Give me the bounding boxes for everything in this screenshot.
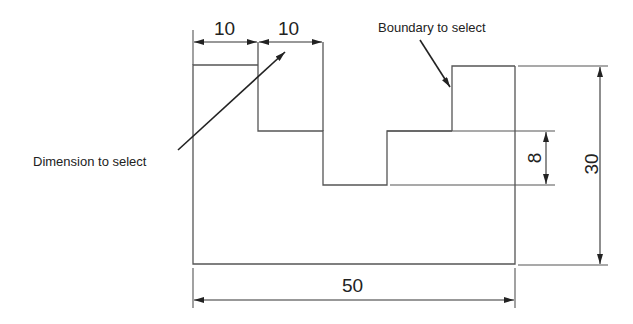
dim-label-top-left: 10: [214, 18, 235, 40]
leader-dimension-arrow: [178, 52, 285, 150]
dim-label-right-small: 8: [524, 153, 546, 164]
callout-dimension-to-select: Dimension to select: [33, 154, 146, 169]
dim-label-right-overall: 30: [581, 153, 603, 174]
leader-boundary-arrow: [420, 40, 450, 87]
part-outline: [193, 42, 515, 264]
callout-boundary-to-select: Boundary to select: [378, 20, 486, 35]
dim-label-bottom: 50: [342, 275, 363, 297]
dim-label-top-right: 10: [278, 18, 299, 40]
boundary-region[interactable]: [452, 66, 515, 131]
